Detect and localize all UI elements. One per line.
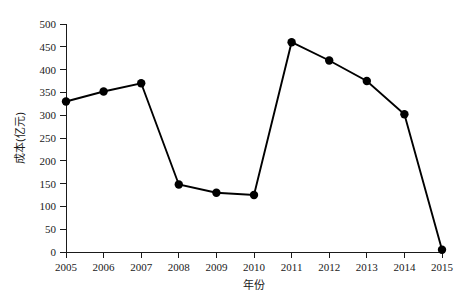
- x-tick-label: 2009: [205, 261, 228, 273]
- x-tick-label: 2005: [55, 261, 78, 273]
- y-tick-label: 150: [40, 178, 57, 190]
- y-axis-title: 成本(亿元): [13, 112, 27, 165]
- data-point: [250, 191, 258, 199]
- y-tick-label: 50: [45, 223, 57, 235]
- data-point: [287, 38, 295, 46]
- x-tick-label: 2008: [168, 261, 191, 273]
- line-chart-plot: 0 50 100 150 200 250 300 350 400 450 500: [0, 0, 470, 296]
- data-point: [62, 97, 70, 105]
- y-tick-label: 0: [51, 246, 57, 258]
- x-tick-label: 2010: [243, 261, 266, 273]
- y-tick-label: 250: [40, 132, 57, 144]
- x-tick-label: 2013: [356, 261, 379, 273]
- x-tick-label: 2012: [318, 261, 340, 273]
- y-tick-label: 400: [40, 64, 57, 76]
- x-tick-label: 2015: [431, 261, 454, 273]
- data-point: [325, 56, 333, 64]
- x-tick-label: 2014: [393, 261, 416, 273]
- y-tick-label: 200: [40, 155, 57, 167]
- y-tick-label: 350: [40, 86, 57, 98]
- x-tick-label: 2007: [130, 261, 153, 273]
- y-tick-label: 300: [40, 109, 57, 121]
- data-point: [137, 79, 145, 87]
- y-tick-label: 450: [40, 41, 57, 53]
- data-point: [363, 77, 371, 85]
- data-point: [212, 189, 220, 197]
- data-point: [438, 246, 446, 254]
- data-point: [400, 110, 408, 118]
- x-tick-label: 2006: [93, 261, 116, 273]
- y-tick-label: 500: [40, 18, 57, 30]
- data-point: [175, 180, 183, 188]
- x-tick-label: 2011: [281, 261, 303, 273]
- data-point: [99, 87, 107, 95]
- x-axis-title: 年份: [243, 278, 265, 292]
- y-tick-label: 100: [40, 200, 57, 212]
- chart-figure: 0 50 100 150 200 250 300 350 400 450 500: [0, 0, 470, 296]
